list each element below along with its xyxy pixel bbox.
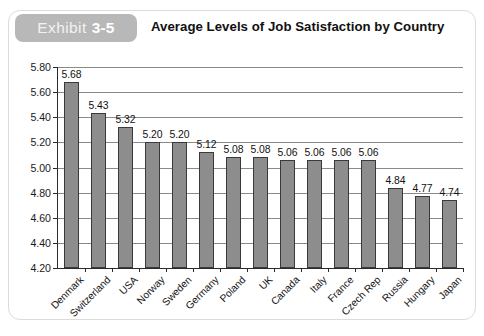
x-axis-tick xyxy=(139,268,140,272)
x-axis-label: Poland xyxy=(217,274,247,304)
x-axis-tick xyxy=(85,268,86,272)
y-axis-tick xyxy=(53,142,58,143)
bar xyxy=(64,82,78,268)
bar xyxy=(388,188,402,268)
x-axis-tick xyxy=(463,268,464,272)
y-axis-label: 5.60 xyxy=(30,86,51,98)
chart-axes: 5.805.605.405.205.004.804.604.404.20 5.6… xyxy=(57,67,463,269)
bar-value-label: 5.08 xyxy=(223,144,243,155)
y-axis-label: 5.00 xyxy=(30,162,51,174)
y-axis-tick xyxy=(53,168,58,169)
bar-value-label: 4.77 xyxy=(412,183,432,194)
x-axis-label: USA xyxy=(117,274,140,297)
y-axis-label: 4.80 xyxy=(30,187,51,199)
exhibit-badge: Exhibit 3-5 xyxy=(15,14,137,42)
bar-value-label: 5.43 xyxy=(88,100,108,111)
bar xyxy=(442,200,456,268)
x-axis-tick xyxy=(436,268,437,272)
y-axis-label: 4.20 xyxy=(30,262,51,274)
y-axis-tick xyxy=(53,117,58,118)
bar-value-label: 4.74 xyxy=(439,187,459,198)
x-axis-label: Canada xyxy=(268,274,301,307)
x-axis-label: Italy xyxy=(307,274,328,295)
x-axis-tick xyxy=(382,268,383,272)
y-axis-tick xyxy=(53,243,58,244)
x-axis-tick xyxy=(409,268,410,272)
bar xyxy=(415,196,429,268)
x-axis-tick xyxy=(355,268,356,272)
x-axis-tick xyxy=(301,268,302,272)
bar xyxy=(334,160,348,268)
bar-value-label: 5.68 xyxy=(61,69,81,80)
x-axis-tick xyxy=(328,268,329,272)
bar xyxy=(199,152,213,268)
bar-value-label: 5.06 xyxy=(358,147,378,158)
x-axis-tick xyxy=(274,268,275,272)
bar-value-label: 5.06 xyxy=(304,147,324,158)
gridline xyxy=(58,92,463,93)
x-axis-label: UK xyxy=(256,274,274,292)
y-axis-tick xyxy=(53,92,58,93)
exhibit-label: Exhibit xyxy=(37,19,86,37)
bar-value-label: 5.06 xyxy=(331,147,351,158)
exhibit-card: Exhibit 3-5 Average Levels of Job Satisf… xyxy=(8,10,476,320)
y-axis-label: 5.20 xyxy=(30,136,51,148)
bar-value-label: 4.84 xyxy=(385,175,405,186)
chart-title: Average Levels of Job Satisfaction by Co… xyxy=(151,19,444,34)
bar-value-label: 5.32 xyxy=(115,114,135,125)
x-axis-tick xyxy=(112,268,113,272)
y-axis-label: 4.60 xyxy=(30,212,51,224)
bar xyxy=(226,157,240,268)
bar-value-label: 5.20 xyxy=(142,129,162,140)
bar xyxy=(361,160,375,268)
chart-plot-area: 5.805.605.405.205.004.804.604.404.20 5.6… xyxy=(9,45,477,321)
bar xyxy=(280,160,294,268)
y-axis-label: 4.40 xyxy=(30,237,51,249)
y-axis-label: 5.80 xyxy=(30,61,51,73)
x-axis-label: Japan xyxy=(436,274,463,301)
x-axis-tick xyxy=(193,268,194,272)
bar xyxy=(253,157,267,268)
bar-value-label: 5.08 xyxy=(250,144,270,155)
y-axis-tick xyxy=(53,67,58,68)
bar-value-label: 5.12 xyxy=(196,139,216,150)
bar xyxy=(172,142,186,268)
bar xyxy=(118,127,132,268)
y-axis-tick xyxy=(53,218,58,219)
y-axis-tick xyxy=(53,268,58,269)
bar xyxy=(145,142,159,268)
x-axis-tick xyxy=(220,268,221,272)
x-axis-tick xyxy=(166,268,167,272)
bar-value-label: 5.20 xyxy=(169,129,189,140)
gridline xyxy=(58,67,463,68)
y-axis-tick xyxy=(53,193,58,194)
exhibit-number: 3-5 xyxy=(92,19,115,37)
exhibit-header: Exhibit 3-5 Average Levels of Job Satisf… xyxy=(9,11,477,45)
bar xyxy=(307,160,321,268)
bar xyxy=(91,113,105,268)
y-axis-label: 5.40 xyxy=(30,111,51,123)
bar-value-label: 5.06 xyxy=(277,147,297,158)
x-axis-tick xyxy=(247,268,248,272)
